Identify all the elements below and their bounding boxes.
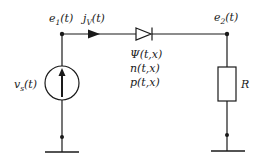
label-diode-n: n(t,x) bbox=[130, 62, 160, 75]
label-diode-psi: Ψ(t,x) bbox=[130, 48, 162, 61]
current-arrow-icon bbox=[88, 30, 100, 39]
label-resistor-r: R bbox=[240, 78, 249, 91]
label-source-vs: vs(t) bbox=[14, 78, 37, 93]
label-current-jv: jV(t) bbox=[80, 12, 105, 27]
diode bbox=[136, 28, 152, 41]
label-e1: e1(t) bbox=[49, 12, 73, 27]
circuit-diagram: e1(t) jV(t) e2(t) Ψ(t,x) n(t,x) p(t,x) v… bbox=[0, 0, 258, 165]
node-e1-dot bbox=[60, 32, 64, 36]
diode-triangle-icon bbox=[136, 28, 151, 40]
label-diode-p: p(t,x) bbox=[130, 76, 160, 89]
ground-node-left bbox=[60, 135, 64, 139]
current-source bbox=[45, 66, 79, 100]
ground-node-right bbox=[225, 133, 229, 137]
label-e2: e2(t) bbox=[214, 11, 238, 26]
node-e2-dot bbox=[225, 32, 229, 36]
resistor-icon bbox=[218, 67, 236, 101]
